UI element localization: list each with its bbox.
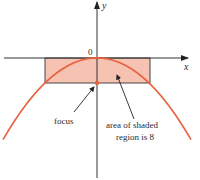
y-axis-label: y — [101, 0, 107, 11]
origin-label: 0 — [88, 47, 93, 57]
x-axis-label: x — [183, 61, 189, 72]
area-label-line2: region is 8 — [116, 132, 154, 142]
focus-point — [95, 81, 99, 85]
parabola-diagram: y x 0 focus area of shaded region is 8 — [0, 0, 200, 180]
focus-label: focus — [54, 116, 74, 126]
focus-pointer-arrow — [74, 87, 94, 112]
area-label-line1: area of shaded — [106, 120, 158, 130]
